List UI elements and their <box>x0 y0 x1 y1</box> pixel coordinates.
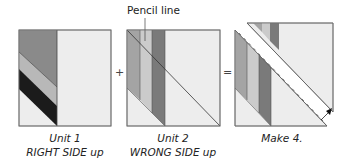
pencil-line-label: Pencil line <box>127 4 180 16</box>
result-title: Make 4. <box>232 131 332 145</box>
plus-sign: + <box>115 66 124 79</box>
unit2-light-gray-strip <box>140 30 152 113</box>
equals-sign: = <box>223 66 232 79</box>
unit2-subtitle: WRONG SIDE up <box>118 145 228 159</box>
unit2-block <box>127 18 220 126</box>
unit2-caption: Unit 2 WRONG SIDE up <box>118 131 228 159</box>
unit1-title: Unit 1 <box>15 131 115 145</box>
unit2-dark-gray-strip <box>152 30 165 126</box>
unit2-title: Unit 2 <box>118 131 228 145</box>
result-block <box>235 23 333 126</box>
result-caption: Make 4. <box>232 131 332 145</box>
unit1-caption: Unit 1 RIGHT SIDE up <box>15 131 115 159</box>
unit1-block <box>19 30 111 126</box>
unit1-subtitle: RIGHT SIDE up <box>15 145 115 159</box>
unit2-medium-gray-strip <box>127 30 140 100</box>
